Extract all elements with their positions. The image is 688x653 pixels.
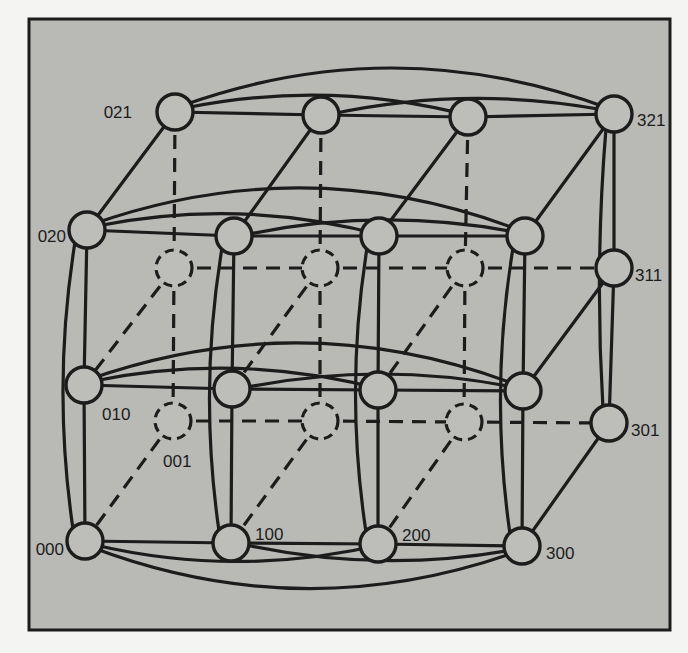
node-label-311: 311	[635, 266, 662, 285]
node-210	[360, 372, 396, 408]
node-label-000: 000	[36, 540, 64, 559]
node-311	[596, 250, 632, 286]
node-label-200: 200	[402, 526, 430, 545]
node-320	[507, 218, 543, 254]
link-000-100	[85, 541, 231, 543]
node-010	[66, 367, 102, 403]
node-221	[450, 99, 486, 135]
link-320-310	[523, 236, 525, 391]
node-121	[303, 97, 339, 133]
link-310-300	[522, 391, 523, 546]
link-110-100	[231, 389, 232, 543]
node-011	[156, 250, 192, 286]
node-321	[596, 96, 632, 132]
node-310	[505, 373, 541, 409]
node-label-300: 300	[546, 544, 574, 563]
node-label-301: 301	[631, 421, 659, 440]
node-220	[361, 218, 397, 254]
node-label-010: 010	[102, 405, 130, 424]
node-101	[302, 403, 338, 439]
node-021	[157, 94, 193, 130]
node-020	[69, 212, 105, 248]
node-200	[360, 526, 396, 562]
node-label-020: 020	[38, 227, 66, 246]
diagram-stage: 021321020311010001301000100200300	[0, 0, 688, 653]
node-label-321: 321	[637, 111, 665, 130]
node-label-001: 001	[163, 452, 191, 471]
hypercube-grid-diagram: 021321020311010001301000100200300	[0, 0, 688, 653]
node-100	[213, 525, 249, 561]
node-001	[155, 403, 191, 439]
node-000	[67, 523, 103, 559]
node-label-100: 100	[255, 525, 283, 544]
node-110	[214, 371, 250, 407]
link-121-221	[321, 115, 468, 117]
link-010-000	[84, 385, 85, 541]
link-200-300	[378, 544, 522, 546]
link-220-210	[378, 236, 379, 390]
link-100-200	[231, 543, 378, 544]
link-120-110	[232, 236, 234, 389]
node-111	[302, 250, 338, 286]
node-120	[216, 218, 252, 254]
node-300	[504, 528, 540, 564]
node-201	[446, 404, 482, 440]
node-label-021: 021	[104, 103, 132, 122]
node-211	[447, 250, 483, 286]
node-301	[591, 405, 627, 441]
